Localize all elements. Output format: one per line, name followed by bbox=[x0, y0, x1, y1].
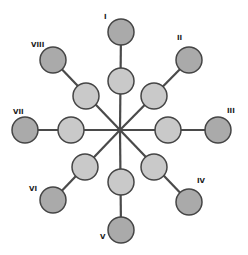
outer-node-vi bbox=[40, 187, 66, 213]
spoke-label-ii: II bbox=[177, 34, 182, 42]
inner-node-iv bbox=[141, 154, 167, 180]
outer-node-viii bbox=[40, 47, 66, 73]
outer-node-ii bbox=[176, 47, 202, 73]
spoke-label-vi: VI bbox=[29, 185, 37, 193]
inner-node-vi bbox=[72, 154, 98, 180]
inner-node-vii bbox=[58, 117, 84, 143]
inner-node-viii bbox=[73, 83, 99, 109]
spoke-label-iii: III bbox=[227, 107, 235, 115]
inner-node-i bbox=[108, 68, 134, 94]
spoke-label-v: V bbox=[100, 233, 106, 241]
radial-diagram: IIIIIIIVVVIVIIVIII bbox=[0, 0, 248, 255]
outer-node-v bbox=[108, 217, 134, 243]
inner-node-v bbox=[108, 169, 134, 195]
spoke-label-vii: VII bbox=[13, 108, 24, 116]
outer-node-i bbox=[108, 19, 134, 45]
outer-node-iii bbox=[205, 117, 231, 143]
inner-node-ii bbox=[141, 83, 167, 109]
spoke-label-viii: VIII bbox=[31, 41, 44, 49]
outer-node-iv bbox=[176, 189, 202, 215]
spoke-label-i: I bbox=[104, 13, 107, 21]
inner-node-iii bbox=[155, 117, 181, 143]
spoke-label-iv: IV bbox=[197, 177, 206, 185]
outer-node-vii bbox=[12, 117, 38, 143]
